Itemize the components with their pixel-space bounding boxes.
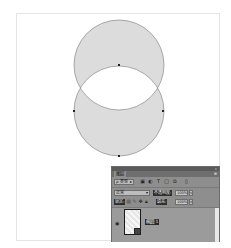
filter-kind-label: ρ 类型 xyxy=(116,179,128,184)
fill-dropdown-button[interactable]: ▾ xyxy=(189,199,193,205)
pixel-filter-icon[interactable]: ▣ xyxy=(140,179,145,184)
chevron-right-icon: ▸ xyxy=(130,180,132,184)
fill-input[interactable]: 100% xyxy=(175,199,188,205)
lock-position-icon[interactable]: ✥ xyxy=(138,199,143,204)
anchor-point[interactable] xyxy=(73,110,75,112)
filter-kind-select[interactable]: ρ 类型 ▸ xyxy=(114,179,134,185)
lock-row: 锁定: ▦ ✎ ✥ 🔒︎ 填充: 100% ▾ xyxy=(112,198,219,206)
layers-panel: « 图层 ≡ ρ 类型 ▸ ▣ ◐ T □ ⧉ ▯ 正常 ▾ 不透明度: 100… xyxy=(111,166,220,242)
layer-row[interactable]: ◉ 椭圆 1 xyxy=(112,208,216,242)
filter-row: ρ 类型 ▸ ▣ ◐ T □ ⧉ ▯ xyxy=(112,178,219,186)
opacity-label: 不透明度: xyxy=(153,190,172,196)
opacity-dropdown-button[interactable]: ▾ xyxy=(189,190,193,196)
lock-pixels-icon[interactable]: ✎ xyxy=(132,199,137,204)
layer-thumbnail[interactable] xyxy=(124,209,141,235)
fill-label: 填充: xyxy=(156,199,167,205)
anchor-point[interactable] xyxy=(162,110,164,112)
adjustment-filter-icon[interactable]: ◐ xyxy=(148,179,153,184)
anchor-point[interactable] xyxy=(118,64,120,66)
layer-name[interactable]: 椭圆 1 xyxy=(145,219,159,225)
lock-all-icon[interactable]: 🔒︎ xyxy=(144,199,149,204)
layers-list: ◉ 椭圆 1 xyxy=(112,208,219,242)
panel-menu-icon[interactable]: ≡ xyxy=(214,171,217,177)
lock-label: 锁定: xyxy=(114,199,125,205)
layers-scrollbar[interactable] xyxy=(215,208,219,242)
chevron-down-icon: ▾ xyxy=(146,191,148,195)
tab-layers[interactable]: 图层 xyxy=(114,171,126,177)
anchor-point[interactable] xyxy=(118,155,120,157)
type-filter-icon[interactable]: T xyxy=(156,179,161,184)
blend-mode-select[interactable]: 正常 ▾ xyxy=(114,190,150,196)
lock-transparent-icon[interactable]: ▦ xyxy=(126,199,131,204)
blend-row: 正常 ▾ 不透明度: 100% ▾ xyxy=(112,189,219,197)
shape-filter-icon[interactable]: □ xyxy=(164,179,169,184)
xor-fill xyxy=(74,20,164,156)
opacity-input[interactable]: 100% xyxy=(175,190,188,196)
shape-layer-badge-icon xyxy=(134,228,141,235)
panel-tabbar: 图层 ≡ xyxy=(112,171,219,177)
smart-object-filter-icon[interactable]: ⧉ xyxy=(172,179,177,184)
filter-toggle-icon[interactable]: ▯ xyxy=(184,179,189,184)
divider xyxy=(112,187,219,188)
blend-mode-value: 正常 xyxy=(116,190,124,195)
eye-icon[interactable]: ◉ xyxy=(115,220,119,226)
